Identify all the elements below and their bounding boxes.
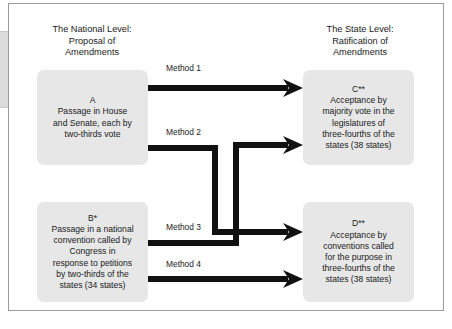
arrow-method-2-line [148, 148, 288, 232]
method-3-label: Method 3 [166, 222, 201, 232]
method-1-label: Method 1 [166, 63, 201, 73]
amendment-process-diagram: The National Level: Proposal of Amendmen… [0, 0, 452, 329]
arrow-method-1 [148, 79, 303, 97]
method-4-label: Method 4 [166, 259, 201, 269]
arrow-method-4 [148, 270, 303, 288]
flow-arrows [0, 0, 452, 329]
method-2-label: Method 2 [166, 127, 201, 137]
